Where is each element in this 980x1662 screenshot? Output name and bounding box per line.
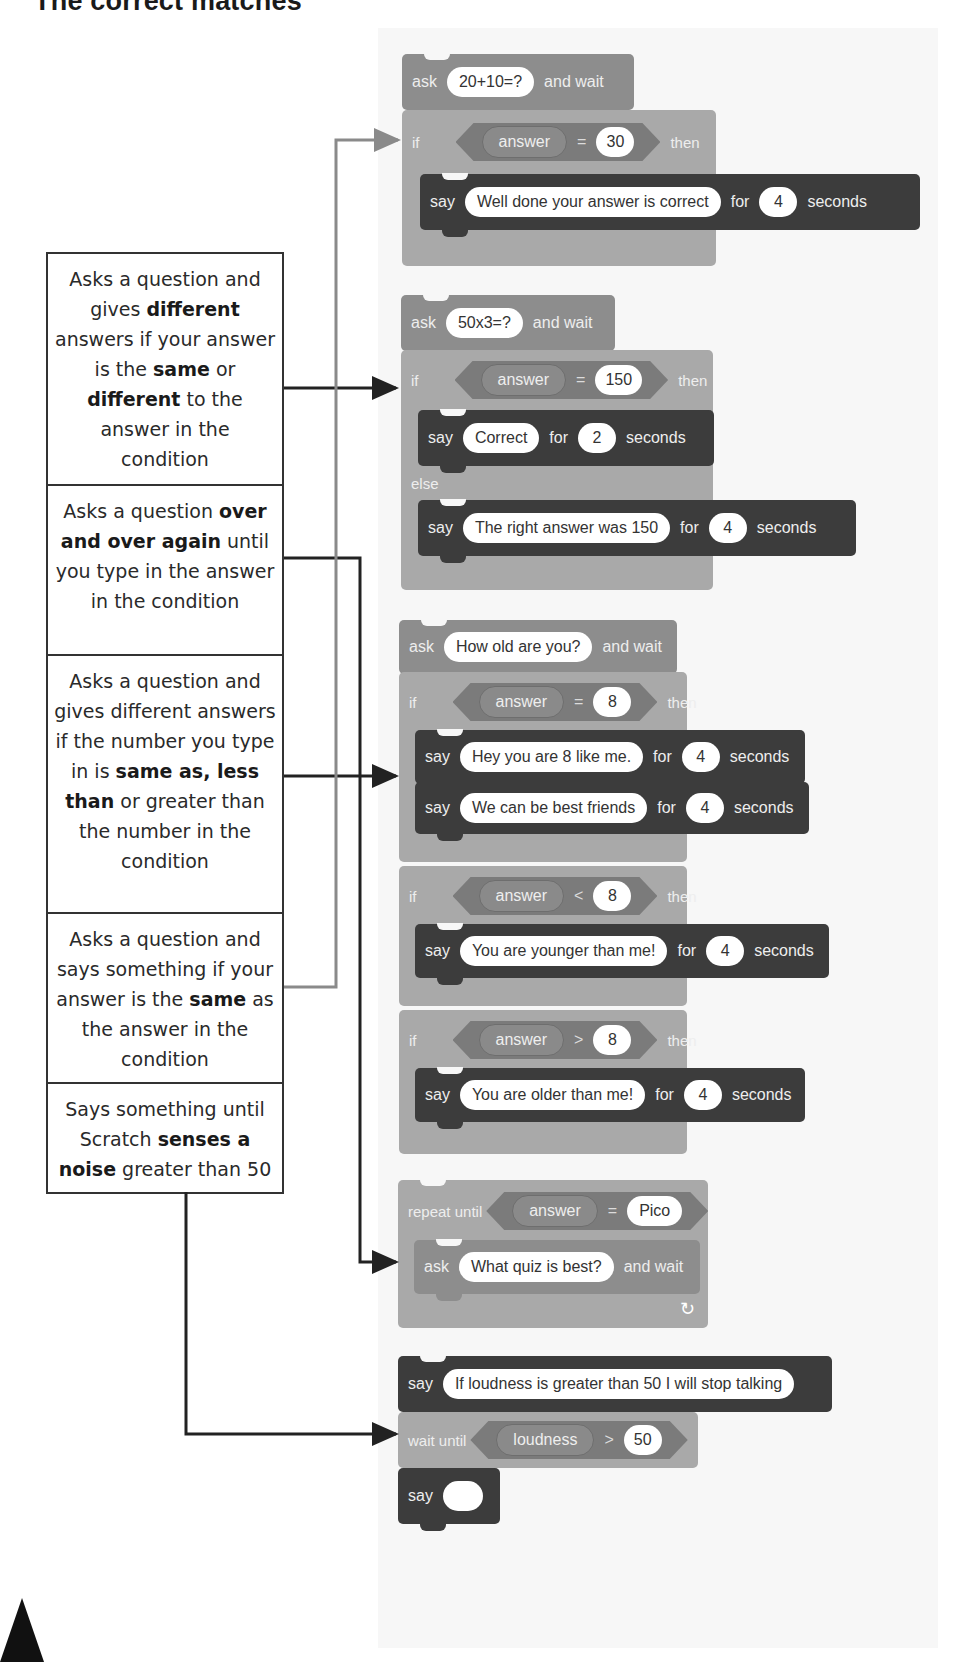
answer-reporter[interactable]: answer — [479, 686, 565, 718]
ask-block[interactable]: ask What quiz is best? and wait — [414, 1240, 700, 1294]
else-label: else — [401, 470, 501, 496]
if-header: if answer = 150 then — [401, 352, 713, 408]
say-for-secs-block[interactable]: say We can be best friends for 4 seconds — [415, 782, 809, 834]
answer-reporter[interactable]: answer — [512, 1195, 598, 1227]
say-for-secs-block[interactable]: say You are older than me! for 4 seconds — [415, 1068, 805, 1122]
say-block[interactable]: say If loudness is greater than 50 I wil… — [398, 1356, 832, 1412]
say-for-secs-block-else[interactable]: say The right answer was 150 for 4 secon… — [418, 500, 856, 556]
greater-than-condition[interactable]: loudness > 50 — [470, 1421, 687, 1459]
description-box-repeat-until: Asks a question over and over again unti… — [46, 484, 284, 656]
ask-block[interactable]: ask 50x3=? and wait — [401, 295, 615, 351]
repeat-until-header: repeat until answer = Pico — [398, 1184, 708, 1238]
say-for-secs-block[interactable]: say Correct for 2 seconds — [418, 410, 714, 466]
condition-value-input[interactable]: 8 — [593, 881, 631, 911]
equals-condition[interactable]: answer = 150 — [455, 361, 669, 399]
description-box-different-answers: Asks a question and gives different answ… — [46, 252, 284, 486]
equals-condition[interactable]: answer = 8 — [453, 683, 658, 721]
equals-condition[interactable]: answer = Pico — [486, 1192, 708, 1230]
say-for-secs-block[interactable]: say Hey you are 8 like me. for 4 seconds — [415, 730, 805, 784]
say-seconds-input[interactable]: 4 — [682, 742, 720, 772]
less-than-condition[interactable]: answer < 8 — [453, 877, 658, 915]
description-box-senses-noise: Says something until Scratch senses a no… — [46, 1082, 284, 1194]
ask-question-input[interactable]: What quiz is best? — [459, 1252, 614, 1282]
condition-value-input[interactable]: 8 — [593, 1025, 631, 1055]
say-for-secs-block[interactable]: say Well done your answer is correct for… — [420, 174, 920, 230]
condition-value-input[interactable]: Pico — [627, 1196, 682, 1226]
say-text-input[interactable]: Well done your answer is correct — [465, 187, 721, 217]
description-box-compare-number: Asks a question and gives different answ… — [46, 654, 284, 914]
ask-question-input[interactable]: How old are you? — [444, 632, 593, 662]
say-seconds-input[interactable]: 4 — [759, 187, 797, 217]
ask-question-input[interactable]: 50x3=? — [446, 308, 523, 338]
condition-value-input[interactable]: 150 — [595, 365, 642, 395]
if-header: if answer = 30 then — [402, 112, 716, 172]
say-text-input[interactable]: The right answer was 150 — [463, 513, 670, 543]
say-seconds-input[interactable]: 4 — [686, 793, 724, 823]
loop-arrow-icon: ↻ — [680, 1298, 695, 1320]
loudness-reporter[interactable]: loudness — [496, 1424, 594, 1456]
say-seconds-input[interactable]: 4 — [706, 936, 744, 966]
page-corner-mark — [0, 1598, 44, 1662]
say-text-input[interactable]: You are younger than me! — [460, 936, 668, 966]
condition-value-input[interactable]: 8 — [593, 687, 631, 717]
if-header: if answer > 8 then — [399, 1012, 687, 1068]
ask-question-input[interactable]: 20+10=? — [447, 67, 534, 97]
say-block[interactable]: say — [398, 1468, 500, 1524]
answer-reporter[interactable]: answer — [482, 126, 568, 158]
description-box-same-answer: Asks a question and says something if yo… — [46, 912, 284, 1084]
equals-condition[interactable]: answer = 30 — [456, 123, 661, 161]
say-text-input[interactable] — [443, 1481, 483, 1511]
condition-value-input[interactable]: 30 — [596, 127, 634, 157]
connector-box5-to-script5 — [186, 1192, 396, 1434]
wait-until-block[interactable]: wait until loudness > 50 — [398, 1412, 698, 1468]
condition-value-input[interactable]: 50 — [624, 1425, 662, 1455]
say-text-input[interactable]: You are older than me! — [460, 1080, 645, 1110]
if-header: if answer < 8 then — [399, 868, 687, 924]
answer-reporter[interactable]: answer — [479, 1024, 565, 1056]
if-header: if answer = 8 then — [399, 674, 687, 730]
answer-reporter[interactable]: answer — [479, 880, 565, 912]
say-seconds-input[interactable]: 4 — [709, 513, 747, 543]
say-for-secs-block[interactable]: say You are younger than me! for 4 secon… — [415, 924, 829, 978]
greater-than-condition[interactable]: answer > 8 — [453, 1021, 658, 1059]
description-list: Asks a question and gives different answ… — [46, 254, 284, 1194]
ask-block[interactable]: ask How old are you? and wait — [399, 620, 677, 674]
say-text-input[interactable]: Hey you are 8 like me. — [460, 742, 643, 772]
say-text-input[interactable]: Correct — [463, 423, 539, 453]
say-seconds-input[interactable]: 2 — [578, 423, 616, 453]
answer-reporter[interactable]: answer — [481, 364, 567, 396]
say-text-input[interactable]: If loudness is greater than 50 I will st… — [443, 1369, 794, 1399]
page-title: The correct matches — [34, 0, 302, 17]
ask-block[interactable]: ask 20+10=? and wait — [402, 54, 634, 110]
say-text-input[interactable]: We can be best friends — [460, 793, 647, 823]
say-seconds-input[interactable]: 4 — [684, 1080, 722, 1110]
